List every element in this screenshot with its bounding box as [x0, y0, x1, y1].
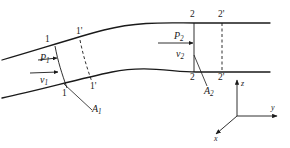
- label-area-1: A1: [92, 104, 102, 116]
- label-section-2-prime-top: 2': [218, 10, 224, 20]
- label-pressure-1-subscript: 1: [46, 57, 50, 65]
- label-section-1-top: 1: [45, 35, 50, 45]
- label-axis-z: z: [241, 80, 244, 88]
- velocity-1-arrow: [30, 72, 58, 73]
- label-section-2-top: 2: [190, 10, 195, 20]
- label-pressure-2: P2: [174, 31, 184, 43]
- label-axis-x: x: [214, 135, 218, 143]
- label-velocity-2: v2: [176, 49, 184, 61]
- label-area-2: A2: [204, 86, 214, 98]
- area-2-leader-line: [194, 55, 207, 86]
- label-pressure-2-subscript: 2: [180, 35, 184, 43]
- label-section-1-prime-top: 1': [76, 27, 82, 37]
- label-area-1-subscript: 1: [98, 108, 102, 116]
- axis-x-line: [216, 116, 237, 134]
- cross-section-1-prime-line: [80, 40, 92, 82]
- label-section-2-prime-bottom: 2': [218, 73, 224, 83]
- label-pressure-1: P1: [40, 53, 50, 65]
- label-velocity-1-subscript: 1: [44, 79, 48, 87]
- label-section-1-prime-bottom: 1': [90, 82, 96, 92]
- label-axis-y: y: [271, 104, 275, 112]
- area-1-leader-line: [64, 84, 92, 110]
- label-velocity-2-subscript: 2: [180, 53, 184, 61]
- label-velocity-1: v1: [40, 75, 48, 87]
- label-section-1-bottom: 1: [62, 89, 67, 99]
- label-area-2-subscript: 2: [210, 90, 214, 98]
- label-section-2-bottom: 2: [190, 73, 195, 83]
- cross-section-1-line: [55, 46, 67, 88]
- flow-tube-diagram: 1 1' 1 1' 2 2' 2 2' P1 v1 P2 v2 A1 A2 z …: [0, 0, 290, 148]
